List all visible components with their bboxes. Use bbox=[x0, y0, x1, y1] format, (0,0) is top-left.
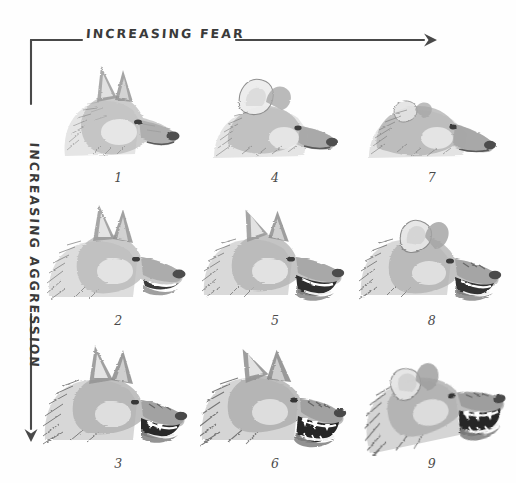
grid-cell-2[interactable]: 2 bbox=[40, 189, 197, 332]
grid-cell-5[interactable]: 5 bbox=[197, 189, 354, 332]
dog-head-1 bbox=[43, 58, 193, 170]
figure-canvas: INCREASING FEAR INCREASING AGGRESSION bbox=[0, 0, 516, 483]
cell-number-label: 5 bbox=[271, 315, 279, 328]
dog-head-4 bbox=[200, 58, 350, 170]
x-axis-label: INCREASING FEAR bbox=[85, 26, 245, 41]
cell-number-label: 8 bbox=[428, 315, 436, 328]
cell-number-label: 3 bbox=[114, 458, 122, 471]
dog-head-2 bbox=[43, 201, 193, 313]
grid-cell-3[interactable]: 3 bbox=[40, 331, 197, 474]
dog-head-8 bbox=[357, 201, 507, 313]
cell-number-label: 9 bbox=[428, 458, 436, 471]
expression-grid: 1 bbox=[40, 46, 510, 474]
cell-number-label: 2 bbox=[114, 315, 122, 328]
dog-head-7 bbox=[357, 58, 507, 170]
dog-head-5 bbox=[200, 201, 350, 313]
grid-cell-1[interactable]: 1 bbox=[40, 46, 197, 189]
grid-cell-6[interactable]: 6 bbox=[197, 331, 354, 474]
dog-head-9 bbox=[357, 344, 507, 456]
grid-cell-4[interactable]: 4 bbox=[197, 46, 354, 189]
grid-cell-8[interactable]: 8 bbox=[353, 189, 510, 332]
grid-cell-7[interactable]: 7 bbox=[353, 46, 510, 189]
cell-number-label: 4 bbox=[271, 172, 279, 185]
cell-number-label: 7 bbox=[428, 172, 436, 185]
dog-head-6 bbox=[200, 344, 350, 456]
right-arrow-icon bbox=[424, 34, 437, 47]
dog-head-3 bbox=[43, 344, 193, 456]
grid-cell-9[interactable]: 9 bbox=[353, 331, 510, 474]
cell-number-label: 1 bbox=[114, 172, 122, 185]
down-arrow-icon bbox=[25, 429, 38, 442]
cell-number-label: 6 bbox=[271, 458, 279, 471]
